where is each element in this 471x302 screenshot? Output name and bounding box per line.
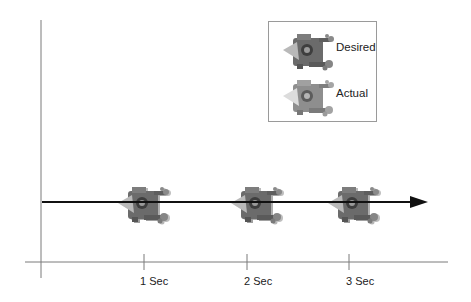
legend-desired-robot-icon [283,34,335,72]
robot-1-sec [118,187,171,225]
tick-label-2-sec: 2 Sec [244,275,272,287]
diagram-canvas [0,0,471,302]
trajectory-arrowhead-icon [410,196,428,208]
legend-label-actual: Actual [336,87,368,99]
legend-label-desired: Desired [336,41,376,53]
robot-2-sec [231,187,284,225]
legend-actual-robot-icon [283,80,335,118]
tick-label-3-sec: 3 Sec [346,275,374,287]
legend: Desired Actual [268,21,377,122]
robot-3-sec [328,187,381,225]
tick-label-1-sec: 1 Sec [140,275,168,287]
